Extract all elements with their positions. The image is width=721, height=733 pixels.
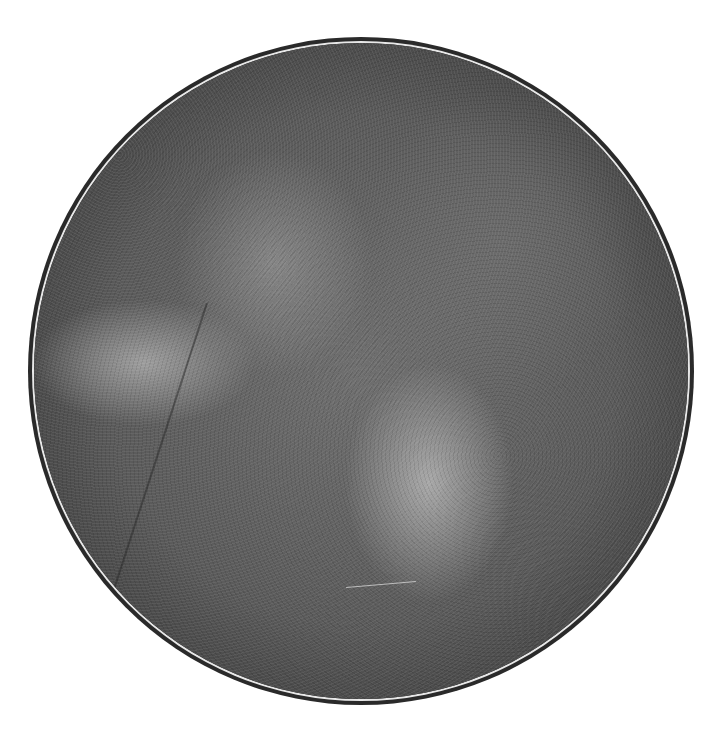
field-interior — [34, 43, 688, 699]
grain-texture — [34, 43, 688, 699]
circular-field-of-view — [28, 37, 694, 705]
